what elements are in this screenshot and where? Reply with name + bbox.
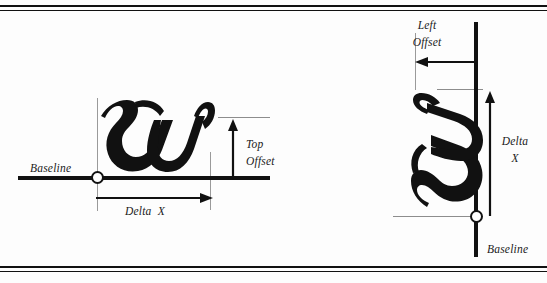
delta-x-label-vertical-line1: Delta bbox=[498, 133, 532, 150]
left-offset-label-line2: Offset bbox=[397, 34, 457, 51]
delta-x-label-vertical-line2: X bbox=[498, 150, 532, 167]
glyph-w-vertical bbox=[407, 92, 489, 210]
top-rule-thick bbox=[0, 5, 547, 7]
left-offset-label-line1: Left bbox=[397, 17, 457, 34]
baseline-label-horizontal: Baseline bbox=[30, 160, 71, 177]
origin-marker-vertical bbox=[470, 210, 483, 223]
delta-x-label-horizontal: Delta X bbox=[125, 203, 165, 220]
top-rule-thin bbox=[0, 10, 547, 11]
top-offset-label: Top Offset bbox=[246, 136, 275, 169]
top-offset-guide-line bbox=[218, 117, 270, 118]
left-offset-label: Left Offset bbox=[397, 17, 457, 50]
glyph-metrics-figure: Baseline Delta X Top Offset bbox=[0, 0, 547, 283]
bottom-rule-thick bbox=[0, 266, 547, 268]
top-offset-label-line1: Top bbox=[246, 136, 275, 153]
delta-x-label-vertical: Delta X bbox=[498, 133, 532, 166]
left-offset-arrow bbox=[414, 54, 478, 72]
top-offset-label-line2: Offset bbox=[246, 153, 275, 170]
bottom-rule-thin bbox=[0, 271, 547, 272]
origin-marker-horizontal bbox=[91, 171, 104, 184]
glyph-w-horizontal bbox=[98, 96, 216, 178]
baseline-label-vertical: Baseline bbox=[487, 241, 528, 258]
top-offset-arrow bbox=[227, 118, 239, 182]
